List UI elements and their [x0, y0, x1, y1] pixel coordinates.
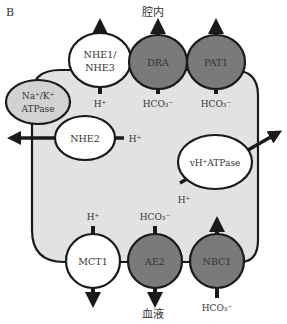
nak-label-2: ATPase: [21, 104, 55, 114]
blood-label: 血液: [142, 307, 164, 321]
transporter-na-k-atpase: Na⁺/K⁺ ATPase: [6, 80, 70, 124]
mct1-label: MCT1: [78, 256, 107, 267]
panel-label: B: [6, 6, 14, 19]
nhe13-ion: H⁺: [94, 99, 107, 109]
dra-label: DRA: [147, 57, 169, 68]
ae2-ion: HCO₃⁻: [140, 212, 171, 222]
vh-label: vH⁺ATPase: [189, 158, 241, 168]
nbc1-ion: HCO₃⁻: [202, 303, 233, 313]
dra-ion: HCO₃⁻: [143, 99, 174, 109]
nhe13-label-2: NHE3: [85, 62, 115, 73]
pat1-label: PAT1: [204, 57, 228, 68]
nak-label-1: Na⁺/K⁺: [22, 91, 55, 101]
ion-transport-diagram: B 腔内 NHE1/ NHE3 H⁺ DRA HCO₃⁻ PAT1 HCO₃⁻ …: [0, 0, 287, 324]
vh-ion: H⁺: [178, 195, 191, 205]
nhe2-ion: H⁺: [129, 134, 142, 144]
ae2-label: AE2: [144, 256, 165, 267]
nhe13-label-1: NHE1/: [84, 49, 118, 60]
lumen-label: 腔内: [142, 5, 164, 19]
nhe2-label: NHE2: [70, 133, 100, 144]
mct1-ion: H⁺: [87, 212, 100, 222]
diagram-canvas: B 腔内 NHE1/ NHE3 H⁺ DRA HCO₃⁻ PAT1 HCO₃⁻ …: [0, 0, 287, 324]
pat1-ion: HCO₃⁻: [201, 99, 232, 109]
nbc1-label: NBC1: [203, 256, 232, 267]
